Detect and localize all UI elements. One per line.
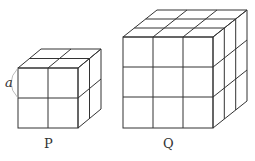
cube-p-label: P bbox=[44, 136, 53, 151]
cube-q-label: Q bbox=[163, 136, 174, 151]
cubes-diagram: a P Q bbox=[0, 0, 255, 161]
cube-p bbox=[11, 49, 101, 128]
cube-q bbox=[123, 10, 247, 128]
edge-label-a: a bbox=[5, 75, 13, 90]
